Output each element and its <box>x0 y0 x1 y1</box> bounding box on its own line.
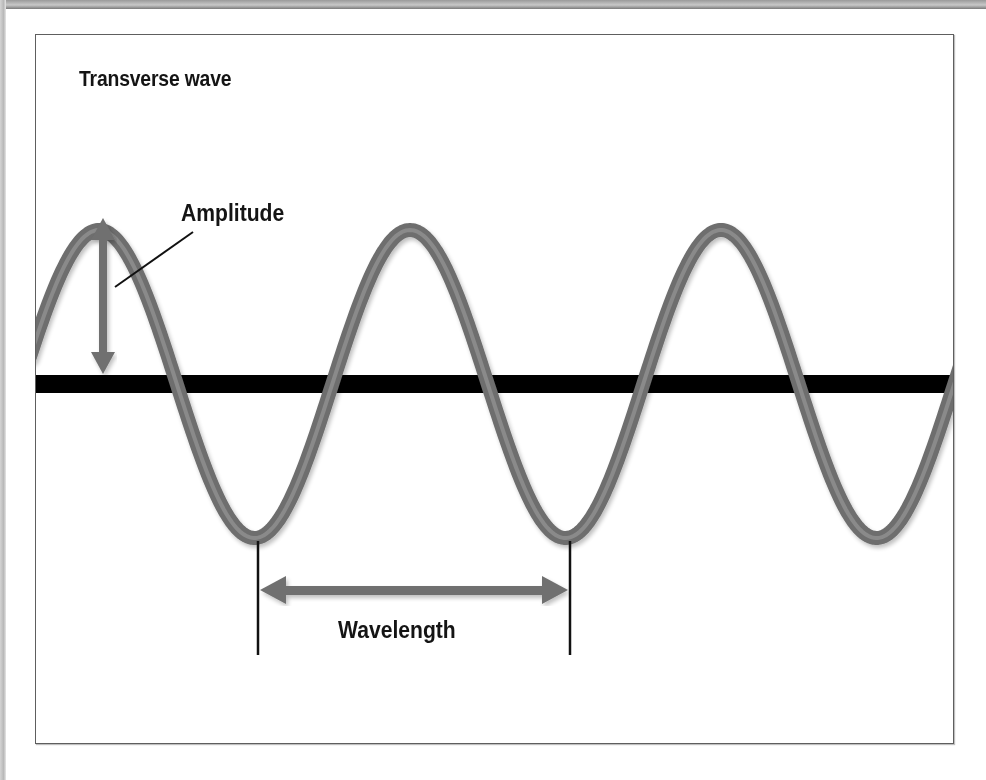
wavelength-arrow <box>260 576 568 604</box>
amplitude-label: Amplitude <box>181 199 284 227</box>
diagram-title: Transverse wave <box>79 66 231 92</box>
wave-diagram <box>0 0 986 780</box>
wavelength-label: Wavelength <box>338 616 456 644</box>
